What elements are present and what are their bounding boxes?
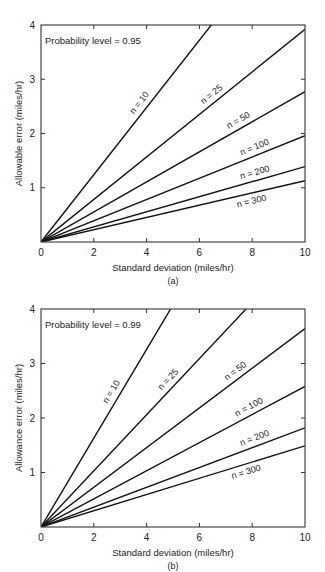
y-tick-label: 3	[29, 358, 35, 369]
series-label: n = 10	[128, 90, 151, 116]
x-tick-label: 4	[144, 247, 150, 258]
figure: 02468101234n = 10n = 25n = 50n = 100n = …	[0, 0, 325, 572]
series-label: n = 300	[230, 463, 262, 481]
x-tick-label: 8	[249, 247, 255, 258]
series-line-n-25	[41, 246, 305, 527]
series-label: n = 25	[198, 82, 224, 106]
plot-frame	[41, 309, 305, 527]
series-label: n = 50	[225, 110, 252, 131]
series-line-n-100	[41, 136, 305, 242]
series-label: n = 100	[238, 137, 270, 158]
y-tick-label: 3	[29, 74, 35, 85]
series-label: n = 200	[238, 428, 270, 448]
series-label: n = 50	[222, 359, 248, 382]
x-tick-label: 8	[249, 532, 255, 543]
series-line-n-200	[41, 428, 305, 527]
probability-annotation: Probability level = 0.95	[45, 35, 141, 46]
x-tick-label: 6	[197, 532, 203, 543]
x-tick-label: 2	[91, 247, 97, 258]
series-lines	[41, 83, 305, 527]
chart-panel-b: 02468101234n = 10n = 25n = 50n = 100n = …	[13, 83, 311, 571]
probability-annotation: Probability level = 0.99	[45, 319, 141, 330]
series-line-n-300	[41, 181, 305, 242]
x-tick-label: 10	[299, 532, 311, 543]
y-tick-label: 4	[29, 20, 35, 31]
x-axis-label: Standard deviation (miles/hr)	[112, 547, 233, 558]
series-line-n-200	[41, 167, 305, 242]
y-axis-label: Allowance error (miles/hr)	[13, 364, 24, 472]
series-line-n-10	[41, 83, 305, 527]
y-axis-label: Allowable error (miles/hr)	[13, 81, 24, 187]
chart-panel-a: 02468101234n = 10n = 25n = 50n = 100n = …	[13, 0, 311, 286]
series-label: n = 10	[100, 378, 122, 405]
x-tick-label: 6	[197, 247, 203, 258]
x-tick-label: 4	[144, 532, 150, 543]
series-label: n = 200	[239, 163, 271, 181]
x-axis-label: Standard deviation (miles/hr)	[112, 262, 233, 273]
x-tick-label: 0	[38, 247, 44, 258]
y-tick-label: 2	[29, 413, 35, 424]
series-line-n-300	[41, 446, 305, 527]
panel-caption: (a)	[168, 276, 179, 286]
series-label: n = 25	[156, 367, 181, 392]
x-tick-label: 2	[91, 532, 97, 543]
series-line-n-25	[41, 29, 305, 242]
series-label: n = 100	[233, 395, 264, 418]
y-tick-label: 4	[29, 304, 35, 315]
x-tick-label: 10	[299, 247, 311, 258]
y-tick-label: 2	[29, 128, 35, 139]
y-tick-label: 1	[29, 467, 35, 478]
x-tick-label: 0	[38, 532, 44, 543]
panel-caption: (b)	[168, 561, 179, 571]
y-tick-label: 1	[29, 182, 35, 193]
series-line-n-100	[41, 386, 305, 527]
